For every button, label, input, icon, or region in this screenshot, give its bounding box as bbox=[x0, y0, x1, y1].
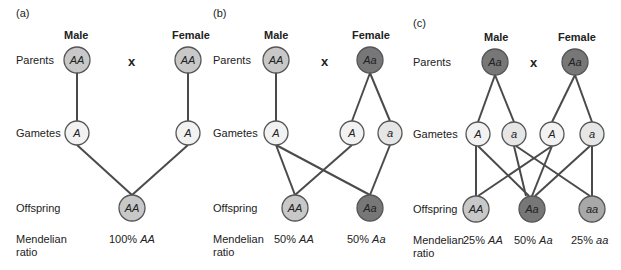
svg-text:A: A bbox=[473, 128, 481, 140]
svg-text:AA: AA bbox=[287, 202, 303, 214]
edge bbox=[516, 146, 590, 196]
offspring-node: Aa bbox=[519, 196, 545, 222]
parent-female-node: AA bbox=[175, 47, 201, 73]
male-header: Male bbox=[264, 29, 288, 41]
female-header: Female bbox=[352, 29, 390, 41]
edge bbox=[535, 146, 590, 196]
svg-text:a: a bbox=[511, 128, 517, 140]
female-header: Female bbox=[558, 31, 596, 43]
gamete-node: A bbox=[466, 122, 490, 146]
panel-a: (a) Male Female Parents x Gametes Offspr… bbox=[16, 7, 210, 258]
gamete-node: A bbox=[540, 122, 564, 146]
offspring-node: AA bbox=[463, 196, 489, 222]
svg-text:A: A bbox=[183, 127, 191, 139]
row-label-ratio: Mendelian bbox=[413, 234, 464, 246]
svg-text:Aa: Aa bbox=[362, 202, 376, 214]
panel-b: (b) Male Female Parents x Gametes Offspr… bbox=[213, 7, 402, 258]
svg-text:AA: AA bbox=[69, 54, 85, 66]
row-label-gametes: Gametes bbox=[413, 128, 458, 140]
edge bbox=[370, 145, 390, 195]
svg-text:AA: AA bbox=[180, 54, 196, 66]
ratio-value: 25% AA bbox=[463, 234, 503, 246]
parent-male-node: AA bbox=[64, 47, 90, 73]
svg-text:Aa: Aa bbox=[362, 54, 376, 66]
panel-label: (c) bbox=[413, 17, 426, 29]
gamete-node: a bbox=[580, 122, 604, 146]
svg-text:Aa: Aa bbox=[487, 56, 501, 68]
cross-symbol: x bbox=[321, 54, 329, 69]
edge bbox=[478, 75, 495, 122]
panel-c: (c) Male Female Parents x Gametes Offspr… bbox=[413, 17, 608, 259]
row-label-offspring: Offspring bbox=[213, 202, 257, 214]
cross-symbol: x bbox=[128, 54, 136, 69]
offspring-node: aa bbox=[579, 196, 605, 222]
row-label-ratio-2: ratio bbox=[16, 246, 37, 258]
svg-text:AA: AA bbox=[268, 54, 284, 66]
offspring-node: AA bbox=[119, 195, 145, 221]
svg-text:AA: AA bbox=[468, 203, 484, 215]
panel-label: (b) bbox=[213, 7, 226, 19]
ratio-value: 100% AA bbox=[109, 233, 155, 245]
row-label-ratio: Mendelian bbox=[16, 233, 67, 245]
svg-text:aa: aa bbox=[586, 203, 598, 215]
row-label-parents: Parents bbox=[413, 56, 451, 68]
edge bbox=[370, 73, 390, 121]
row-label-ratio: Mendelian bbox=[213, 233, 264, 245]
gamete-node: A bbox=[176, 121, 200, 145]
row-label-offspring: Offspring bbox=[16, 202, 60, 214]
parent-male-node: AA bbox=[263, 47, 289, 73]
gamete-node: A bbox=[264, 121, 288, 145]
parent-female-node: Aa bbox=[357, 47, 383, 73]
row-label-offspring: Offspring bbox=[413, 203, 457, 215]
svg-text:a: a bbox=[589, 128, 595, 140]
cross-symbol: x bbox=[530, 55, 538, 70]
row-label-ratio-2: ratio bbox=[213, 246, 234, 258]
parent-female-node: Aa bbox=[562, 49, 588, 75]
svg-text:A: A bbox=[547, 128, 555, 140]
ratio-value: 25% aa bbox=[571, 234, 608, 246]
ratio-value: 50% Aa bbox=[347, 233, 386, 245]
offspring-node: AA bbox=[282, 195, 308, 221]
row-label-gametes: Gametes bbox=[213, 127, 258, 139]
offspring-node: Aa bbox=[357, 195, 383, 221]
parent-male-node: Aa bbox=[482, 49, 508, 75]
svg-text:Aa: Aa bbox=[567, 56, 581, 68]
svg-text:A: A bbox=[72, 127, 80, 139]
edge bbox=[352, 73, 370, 121]
edge bbox=[575, 75, 592, 122]
edge bbox=[495, 75, 514, 122]
svg-text:A: A bbox=[271, 127, 279, 139]
edge bbox=[552, 75, 575, 122]
ratio-value: 50% AA bbox=[274, 233, 314, 245]
edge bbox=[132, 145, 188, 195]
male-header: Male bbox=[484, 31, 508, 43]
row-label-parents: Parents bbox=[213, 54, 251, 66]
edge bbox=[478, 146, 529, 196]
row-label-parents: Parents bbox=[16, 54, 54, 66]
mendelian-inheritance-diagram: (a) Male Female Parents x Gametes Offspr… bbox=[0, 0, 621, 270]
gamete-node: a bbox=[378, 121, 402, 145]
edge bbox=[77, 145, 132, 195]
female-header: Female bbox=[172, 29, 210, 41]
row-label-gametes: Gametes bbox=[16, 127, 61, 139]
row-label-ratio-2: ratio bbox=[413, 247, 434, 259]
panel-label: (a) bbox=[16, 7, 29, 19]
ratio-value: 50% Aa bbox=[514, 234, 553, 246]
gamete-node: A bbox=[65, 121, 89, 145]
svg-text:AA: AA bbox=[124, 202, 140, 214]
male-header: Male bbox=[64, 29, 88, 41]
gamete-node: A bbox=[340, 121, 364, 145]
svg-text:a: a bbox=[387, 127, 393, 139]
svg-text:Aa: Aa bbox=[524, 203, 538, 215]
gamete-node: a bbox=[502, 122, 526, 146]
svg-text:A: A bbox=[347, 127, 355, 139]
edge bbox=[295, 145, 352, 195]
